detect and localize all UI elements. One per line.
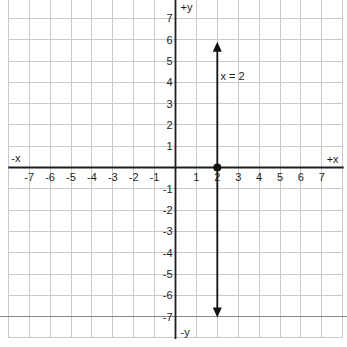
x-tick-label: 5 <box>277 171 283 183</box>
y-tick-label: 3 <box>166 98 172 110</box>
x-tick-label: 3 <box>235 171 241 183</box>
neg-y-axis-label: -y <box>181 326 191 338</box>
y-tick-label: -3 <box>163 225 173 237</box>
x-tick-label: -1 <box>150 171 160 183</box>
x-tick-label: 7 <box>319 171 325 183</box>
x-tick-label: -6 <box>45 171 55 183</box>
x-tick-label: -4 <box>87 171 97 183</box>
x-intercept-point <box>213 164 221 172</box>
y-tick-label: -2 <box>163 204 173 216</box>
y-tick-label: 6 <box>166 34 172 46</box>
y-tick-label: -1 <box>163 183 173 195</box>
equation-label: x = 2 <box>220 70 244 82</box>
y-tick-label: -4 <box>163 247 173 259</box>
y-tick-label: 7 <box>166 12 172 24</box>
y-tick-label: -7 <box>163 311 173 323</box>
grid-lines <box>0 0 347 338</box>
y-tick-label: 1 <box>166 140 172 152</box>
arrow-up-icon <box>213 42 222 52</box>
neg-x-axis-label: -x <box>11 152 21 164</box>
x-tick-label: -3 <box>108 171 118 183</box>
y-tick-label: -5 <box>163 268 173 280</box>
pos-y-axis-label: +y <box>181 1 193 13</box>
axes <box>8 0 343 339</box>
x-tick-label: -2 <box>129 171 139 183</box>
x-tick-label: 4 <box>256 171 262 183</box>
annotations: x = 2 <box>220 70 244 82</box>
x-tick-label: 6 <box>298 171 304 183</box>
x-tick-label: -5 <box>66 171 76 183</box>
y-tick-label: 5 <box>166 55 172 67</box>
y-tick-label: -6 <box>163 289 173 301</box>
pos-x-axis-label: +x <box>327 153 339 165</box>
x-tick-label: 1 <box>193 171 199 183</box>
x-tick-label: -7 <box>24 171 34 183</box>
y-tick-label: 4 <box>166 76 172 88</box>
y-tick-label: 2 <box>166 119 172 131</box>
coordinate-plane: -7-6-5-4-3-2-112345677654321-1-2-3-4-5-6… <box>0 0 347 347</box>
